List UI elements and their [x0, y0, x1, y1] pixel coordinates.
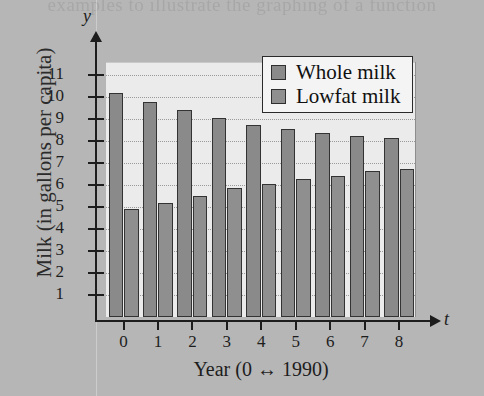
bar-lowfat-milk-year-0	[124, 209, 139, 317]
x-axis-tick-label: 3	[212, 332, 242, 352]
x-axis-tick	[364, 322, 366, 330]
bar-chart-figure: Milk (in gallons per capita) y t 1110987…	[0, 0, 484, 396]
y-axis-tick	[88, 140, 104, 142]
legend-swatch-icon	[271, 65, 286, 80]
y-axis-tick	[88, 250, 104, 252]
y-axis-tick	[88, 118, 104, 120]
y-axis-symbol-label: y	[83, 6, 91, 27]
bar-lowfat-milk-year-8	[400, 169, 415, 317]
y-axis-tick-label: 10	[24, 86, 64, 106]
bar-whole-milk-year-7	[350, 136, 365, 317]
y-axis-tick-label: 2	[24, 262, 64, 282]
y-axis-tick-label: 8	[24, 130, 64, 150]
x-axis-tick-label: 1	[143, 332, 173, 352]
x-axis-tick	[157, 322, 159, 330]
bar-whole-milk-year-0	[109, 93, 124, 317]
y-axis-tick-label: 6	[24, 174, 64, 194]
x-axis-tick	[226, 322, 228, 330]
x-axis-tick	[329, 322, 331, 330]
bar-lowfat-milk-year-3	[227, 188, 242, 317]
y-axis-tick-label: 9	[24, 108, 64, 128]
x-axis-tick	[123, 322, 125, 330]
x-axis-title: Year (0 ↔ 1990)	[106, 358, 416, 381]
x-axis-tick-label: 5	[281, 332, 311, 352]
bar-lowfat-milk-year-6	[331, 176, 346, 317]
y-axis-tick	[88, 74, 104, 76]
y-axis-tick	[88, 206, 104, 208]
y-axis-tick	[88, 96, 104, 98]
x-axis-symbol-label: t	[444, 309, 449, 330]
y-axis-tick-label: 4	[24, 218, 64, 238]
y-axis-tick-label: 3	[24, 240, 64, 260]
x-axis-tick-label: 7	[350, 332, 380, 352]
y-axis-tick	[88, 162, 104, 164]
x-axis-tick	[260, 322, 262, 330]
x-axis-tick	[191, 322, 193, 330]
y-axis-tick	[88, 272, 104, 274]
x-axis-tick-label: 6	[315, 332, 345, 352]
bar-whole-milk-year-3	[212, 118, 227, 317]
y-axis-tick-label: 5	[24, 196, 64, 216]
bar-whole-milk-year-1	[143, 102, 158, 317]
bar-whole-milk-year-2	[177, 110, 192, 317]
x-axis-tick-label: 8	[384, 332, 414, 352]
y-axis-tick-label: 7	[24, 152, 64, 172]
bar-lowfat-milk-year-7	[365, 171, 380, 317]
x-axis-tick-label: 2	[177, 332, 207, 352]
legend-swatch-icon	[271, 89, 286, 104]
x-axis-line	[95, 320, 432, 322]
legend-label: Whole milk	[296, 60, 396, 85]
x-axis-tick-label: 0	[109, 332, 139, 352]
bar-whole-milk-year-4	[246, 125, 261, 317]
bar-lowfat-milk-year-1	[158, 203, 173, 317]
legend-entry: Lowfat milk	[271, 84, 400, 108]
x-axis-arrowhead-icon	[430, 315, 441, 327]
bar-lowfat-milk-year-2	[193, 196, 208, 317]
chart-legend: Whole milk Lowfat milk	[262, 56, 413, 113]
y-axis-line	[95, 40, 97, 322]
bar-whole-milk-year-6	[315, 133, 330, 317]
x-axis-tick-label: 4	[246, 332, 276, 352]
bar-lowfat-milk-year-4	[262, 184, 277, 317]
x-axis-tick	[295, 322, 297, 330]
x-axis-tick	[398, 322, 400, 330]
bar-whole-milk-year-8	[384, 138, 399, 317]
y-axis-arrowhead-icon	[90, 31, 102, 42]
y-axis-tick-label: 1	[24, 284, 64, 304]
y-axis-tick	[88, 228, 104, 230]
bar-lowfat-milk-year-5	[296, 179, 311, 317]
y-axis-tick-label: 11	[24, 64, 64, 84]
y-axis-tick	[88, 184, 104, 186]
legend-label: Lowfat milk	[296, 84, 400, 109]
bar-whole-milk-year-5	[281, 129, 296, 317]
legend-entry: Whole milk	[271, 60, 400, 84]
y-axis-tick	[88, 294, 104, 296]
